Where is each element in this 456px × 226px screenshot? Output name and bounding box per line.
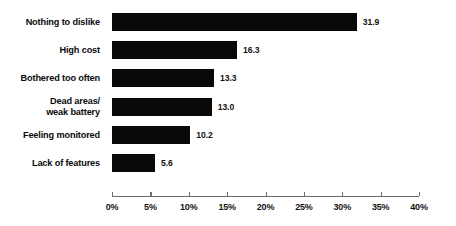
category-label-line: Dead areas/	[50, 96, 100, 106]
bar	[112, 69, 214, 87]
x-axis-tick-label: 10%	[180, 202, 197, 212]
bar	[112, 154, 155, 172]
bar-value-label: 10.2	[196, 130, 212, 140]
category-label: Dead areas/weak battery	[0, 93, 106, 121]
x-axis-line	[112, 196, 419, 197]
bar	[112, 98, 212, 116]
category-label-line: Nothing to dislike	[26, 17, 100, 27]
x-axis-tick	[189, 192, 190, 196]
category-label-line: Feeling monitored	[23, 130, 100, 140]
bar-value-label: 13.0	[218, 102, 234, 112]
bar-row: High cost16.3	[0, 36, 456, 64]
bar-value-label: 13.3	[220, 73, 236, 83]
bar-track: 16.3	[112, 36, 456, 64]
x-axis-tick-label: 0%	[106, 202, 119, 212]
bar-track: 31.9	[112, 8, 456, 36]
category-label: Feeling monitored	[0, 121, 106, 149]
x-axis-tick	[227, 192, 228, 196]
bar-track: 13.3	[112, 64, 456, 92]
category-label-line: weak battery	[46, 107, 100, 117]
category-label: Nothing to dislike	[0, 8, 106, 36]
x-axis-tick	[342, 192, 343, 196]
bar-value-label: 31.9	[363, 17, 379, 27]
category-label: Lack of features	[0, 149, 106, 177]
bar-row: Nothing to dislike31.9	[0, 8, 456, 36]
x-axis-tick	[266, 192, 267, 196]
horizontal-bar-chart: Nothing to dislike31.9High cost16.3Bothe…	[0, 0, 456, 226]
bar-value-label: 5.6	[161, 158, 173, 168]
category-label-line: High cost	[59, 45, 100, 55]
x-axis-tick-label: 25%	[295, 202, 312, 212]
x-axis-tick-label: 20%	[257, 202, 274, 212]
category-label-line: Lack of features	[32, 158, 100, 168]
x-axis-tick	[304, 192, 305, 196]
bar	[112, 41, 237, 59]
x-axis-tick	[381, 192, 382, 196]
x-axis-tick-label: 40%	[410, 202, 427, 212]
x-axis-tick	[112, 192, 113, 196]
category-label-line: Bothered too often	[21, 73, 100, 83]
bar-track: 10.2	[112, 121, 456, 149]
bar	[112, 126, 190, 144]
bar-row: Lack of features5.6	[0, 149, 456, 177]
x-axis-tick-label: 35%	[372, 202, 389, 212]
bar-row: Feeling monitored10.2	[0, 121, 456, 149]
bar-row: Bothered too often13.3	[0, 64, 456, 92]
x-axis-tick	[419, 192, 420, 196]
bar-row: Dead areas/weak battery13.0	[0, 93, 456, 121]
x-axis-tick-label: 5%	[144, 202, 157, 212]
bar-track: 13.0	[112, 93, 456, 121]
x-axis-tick-label: 30%	[334, 202, 351, 212]
x-axis-tick	[150, 192, 151, 196]
bar-track: 5.6	[112, 149, 456, 177]
category-label: High cost	[0, 36, 106, 64]
bar-value-label: 16.3	[243, 45, 259, 55]
x-axis-tick-label: 15%	[218, 202, 235, 212]
category-label: Bothered too often	[0, 64, 106, 92]
bar	[112, 13, 357, 31]
